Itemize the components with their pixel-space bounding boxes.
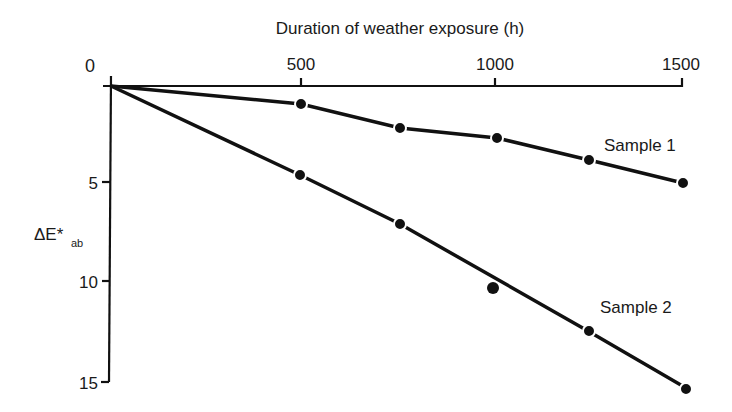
y-axis [101, 76, 111, 382]
x-tick-label-1500: 1500 [662, 55, 700, 74]
data-point [491, 132, 503, 144]
data-point [394, 218, 406, 230]
data-point [583, 325, 595, 337]
y-axis-title: ΔE* ab [34, 225, 83, 249]
data-point [295, 98, 307, 110]
series-label-sample-2: Sample 2 [600, 298, 672, 317]
x-tick-label-1000: 1000 [476, 55, 514, 74]
data-point [677, 177, 689, 189]
x-tick-label-0: 0 [85, 56, 95, 76]
y-axis-title-sub: ab [71, 237, 83, 249]
y-tick-label-10: 10 [79, 273, 98, 292]
data-point [680, 383, 692, 395]
x-axis [103, 78, 682, 87]
x-axis-title: Duration of weather exposure (h) [276, 19, 525, 38]
chart: Duration of weather exposure (h) 0 500 1… [0, 0, 732, 412]
x-tick-label-500: 500 [287, 55, 315, 74]
data-point [294, 169, 306, 181]
y-tick-label-15: 15 [79, 374, 98, 393]
series-label-sample-1: Sample 1 [604, 136, 676, 155]
data-point [487, 282, 499, 294]
series-sample-1: Sample 1 [111, 86, 689, 189]
y-axis-title-main: ΔE* [34, 225, 64, 244]
data-point [394, 122, 406, 134]
y-tick-label-5: 5 [89, 174, 98, 193]
data-point [583, 154, 595, 166]
